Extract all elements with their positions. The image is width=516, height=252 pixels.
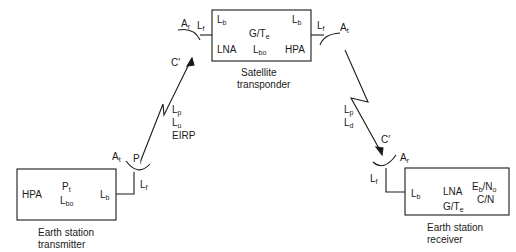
downlink-lp-label: Lp: [344, 104, 353, 115]
earth-rx-lf-label: Lf: [370, 173, 378, 184]
earth-tx-hpa-label: HPA: [22, 189, 42, 200]
sat-hpa-label: HPA: [285, 44, 305, 55]
downlink-arrowhead-icon: [376, 147, 383, 155]
uplink-path: [141, 58, 192, 160]
earth-tx-lf-label: Lf: [140, 179, 148, 190]
sat-lf-out-label: Lf: [317, 20, 325, 31]
sat-g-te-label: G/Te: [249, 28, 270, 39]
uplink-eirp-label: EIRP: [172, 130, 195, 141]
earth-tx-caption: Earth stationtransmitter: [38, 227, 94, 251]
earth-rx-feeder: [386, 168, 405, 192]
satellite-caption: Satellitetransponder: [237, 67, 290, 91]
earth-rx-eb-no-label: Eb/No: [472, 181, 496, 192]
earth-rx-antenna-icon: [373, 155, 396, 166]
earth-tx-lb-label: Lb: [100, 189, 109, 200]
uplink-lu-label: Lu: [172, 117, 181, 128]
earth-rx-cn-label: C/N: [477, 194, 494, 205]
uplink-arrowhead-icon: [187, 58, 194, 66]
sat-rx-antenna-icon: [178, 29, 200, 40]
earth-tx-at-label: At: [112, 151, 121, 162]
earth-rx-ar-label: Ar: [400, 152, 409, 163]
sat-lf-in-label: Lf: [197, 20, 205, 31]
uplink-c-prime-label: C′: [171, 57, 180, 68]
earth-rx-caption: Earth stationreceiver: [427, 222, 483, 246]
downlink-path: [345, 50, 381, 152]
sat-lb-in-label: Lb: [217, 14, 226, 25]
earth-tx-pr-label: Pr: [133, 153, 142, 164]
earth-rx-lb-label: Lb: [411, 188, 420, 199]
sat-lbo-label: Lbo: [253, 44, 266, 55]
sat-lb-out-label: Lb: [292, 14, 301, 25]
downlink-ld-label: Ld: [344, 117, 353, 128]
downlink-c-prime-label: C′: [381, 134, 390, 145]
uplink-lp-label: Lp: [172, 104, 181, 115]
earth-tx-lbo-label: Lbo: [60, 195, 73, 206]
sat-ar-label: Ar: [181, 18, 190, 29]
earth-tx-pt-label: Pt: [62, 181, 71, 192]
earth-rx-lna-label: LNA: [443, 186, 462, 197]
sat-at-label: At: [340, 22, 349, 33]
earth-rx-g-te-label: G/Te: [443, 201, 464, 212]
sat-lna-label: LNA: [217, 44, 236, 55]
earth-tx-feeder: [116, 172, 134, 194]
